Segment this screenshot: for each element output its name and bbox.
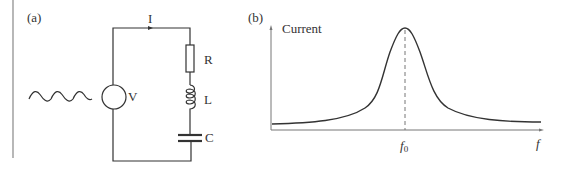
capacitor-label: C <box>205 130 214 145</box>
source-label: V <box>128 89 138 104</box>
ac-wave-icon <box>29 92 92 102</box>
resistor-icon <box>186 45 194 72</box>
inductor-label: L <box>204 92 212 107</box>
top-wire <box>113 28 190 85</box>
inductor-icon <box>186 85 195 113</box>
figure: (a) I V R L C (b) Current <box>0 0 567 169</box>
resistor-label: R <box>204 52 213 67</box>
panel-b-chart: (b) Current f0 f <box>248 10 544 154</box>
current-arrow-icon <box>148 26 153 30</box>
f0-label: f0 <box>400 138 409 154</box>
voltage-source-icon <box>102 85 126 109</box>
x-axis-label: f <box>536 136 542 151</box>
current-label: I <box>148 11 152 26</box>
resonance-curve <box>272 28 541 124</box>
panel-b-label: (b) <box>248 10 263 25</box>
y-axis-label: Current <box>282 21 322 36</box>
capacitor-icon <box>178 135 202 141</box>
x-axis-arrow-icon <box>539 129 544 132</box>
y-axis-arrow-icon <box>270 25 273 30</box>
panel-a-circuit: (a) I V R L C <box>27 10 214 161</box>
panel-a-label: (a) <box>27 10 41 25</box>
